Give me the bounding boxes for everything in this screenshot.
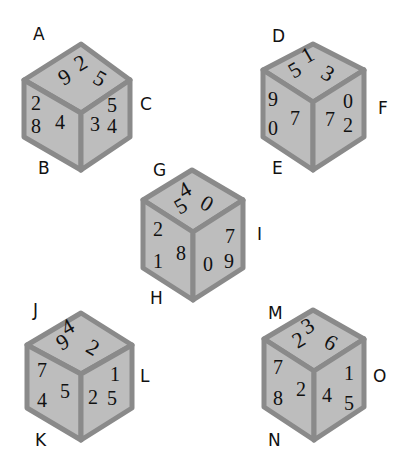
cube-3-left-digit-2: 1 [153,250,163,272]
cube-5-left-digit-1: 7 [273,356,283,378]
cube-5-right-digit-2: 1 [344,362,354,384]
cube-3-left-digit-1: 2 [153,218,163,240]
cube-2-left-digit-2: 0 [268,117,278,139]
cube-5-left-digit-2: 8 [273,387,283,409]
label-b: B [38,160,50,177]
cube-4-left-digit-1: 7 [37,359,47,381]
cube-2-right-digit-1: 7 [325,108,335,130]
cube-2: 1 3 5 9 0 7 7 0 2 [263,41,364,170]
cube-1-left-digit-1: 2 [31,92,41,114]
label-o: O [373,368,386,385]
cube-1-right-digit-3: 4 [107,115,117,137]
label-h: H [150,290,163,307]
label-e: E [272,160,283,177]
label-j: J [33,302,38,319]
label-l: L [140,368,149,385]
cube-puzzle-diagram: 2 5 9 2 8 4 3 5 4 1 3 5 9 0 7 7 0 2 [0,0,410,476]
cube-3-right-digit-2: 7 [225,225,235,247]
cube-4-right-digit-3: 5 [107,387,117,409]
cube-4-right-digit-2: 1 [110,363,120,385]
label-m: M [268,305,283,322]
cube-3: 4 0 5 2 1 8 0 7 9 [143,170,243,300]
cube-2-left-digit-1: 9 [268,88,278,110]
cube-5-right-digit-1: 4 [322,384,332,406]
cube-3-right-digit-1: 0 [203,253,213,275]
label-d: D [272,28,285,45]
cube-4-left-digit-2: 4 [37,389,47,411]
cube-1-right-digit-2: 5 [107,94,117,116]
cube-3-right-digit-3: 9 [224,250,234,272]
label-i: I [257,226,262,243]
cube-5-left-digit-3: 2 [296,378,306,400]
cube-5: 3 6 2 7 8 2 4 1 5 [264,310,364,440]
cube-3-left-digit-3: 8 [176,242,186,264]
cube-1-left-digit-3: 4 [55,111,65,133]
label-g: G [153,162,166,179]
label-c: C [140,96,152,113]
cube-2-right-digit-3: 2 [343,114,353,136]
cube-2-left-digit-3: 7 [290,107,300,129]
cube-1: 2 5 9 2 8 4 3 5 4 [24,44,130,170]
cube-2-right-digit-2: 0 [343,90,353,112]
cube-4-right-digit-1: 2 [88,386,98,408]
cube-5-right-digit-3: 5 [344,392,354,414]
cubes-canvas: 2 5 9 2 8 4 3 5 4 1 3 5 9 0 7 7 0 2 [0,0,410,476]
cube-1-right-digit-1: 3 [90,113,100,135]
label-a: A [33,26,45,43]
label-n: N [268,432,281,449]
cube-1-left-digit-2: 8 [31,115,41,137]
label-k: K [35,432,46,449]
label-f: F [378,100,388,117]
cube-4: 4 2 9 7 4 5 2 1 5 [27,313,132,440]
cube-4-left-digit-3: 5 [60,380,70,402]
